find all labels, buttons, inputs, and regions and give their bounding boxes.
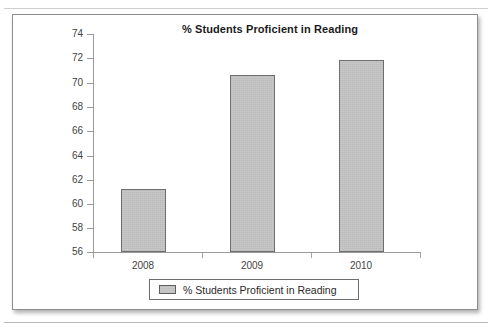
bar-2010[interactable] [339,60,384,252]
y-axis-tick-label: 68 [57,102,83,112]
y-axis-tick-label: 70 [57,78,83,88]
x-axis-tick [420,253,421,258]
y-axis-tick [87,156,93,157]
x-axis-label-2009: 2009 [212,260,292,271]
y-axis-tick [87,58,93,59]
y-axis-tick [87,107,93,108]
legend-color-swatch-icon [159,285,176,294]
top-horizontal-rule [4,8,488,9]
y-axis-tick [87,131,93,132]
chart-figure-frame: % Students Proficient in Reading 74 72 7… [12,14,478,310]
y-axis-tick-label: 72 [57,53,83,63]
y-axis-tick [87,228,93,229]
legend-label: % Students Proficient in Reading [183,284,337,296]
y-axis-tick-label: 60 [57,199,83,209]
y-axis-tick [87,83,93,84]
y-axis-line [93,34,94,253]
x-axis-label-2010: 2010 [321,260,401,271]
y-axis-tick-label: 56 [57,247,83,257]
y-axis-tick [87,180,93,181]
x-axis-tick [202,253,203,258]
y-axis-tick [87,204,93,205]
bar-2009[interactable] [230,75,275,252]
plot-area: 74 72 70 68 66 64 62 60 58 56 2008 [13,15,479,311]
chart-legend[interactable]: % Students Proficient in Reading [149,279,359,300]
bar-2008[interactable] [121,189,166,252]
y-axis-tick-label: 58 [57,223,83,233]
x-axis-line [93,252,421,253]
x-axis-tick [311,253,312,258]
y-axis-tick [87,34,93,35]
y-axis-tick-label: 64 [57,151,83,161]
y-axis-tick-label: 62 [57,175,83,185]
y-axis-tick-label: 74 [57,29,83,39]
x-axis-label-2008: 2008 [103,260,183,271]
x-axis-tick [93,253,94,258]
y-axis-tick-label: 66 [57,126,83,136]
bottom-horizontal-rule [4,322,488,323]
